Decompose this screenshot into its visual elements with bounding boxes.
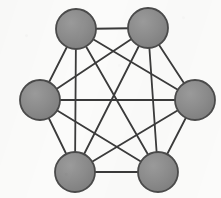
edge-layer <box>40 28 195 172</box>
graph-node-right[interactable] <box>175 80 215 120</box>
graph-node-bottom-left[interactable] <box>55 152 95 192</box>
graph-node-bottom-right[interactable] <box>138 152 178 192</box>
node-circle[interactable] <box>128 8 168 48</box>
graph-node-top-right[interactable] <box>128 8 168 48</box>
graph-node-top-left[interactable] <box>56 9 96 49</box>
graph-canvas <box>0 0 221 198</box>
node-circle[interactable] <box>175 80 215 120</box>
node-circle[interactable] <box>20 80 60 120</box>
node-circle[interactable] <box>138 152 178 192</box>
graph-node-left[interactable] <box>20 80 60 120</box>
node-circle[interactable] <box>56 9 96 49</box>
node-circle[interactable] <box>55 152 95 192</box>
graph-diagram-figure <box>0 0 221 198</box>
